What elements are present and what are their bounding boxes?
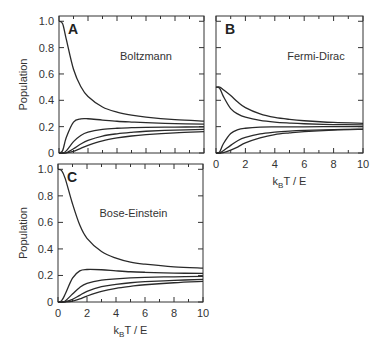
x-tick-label: 2 (242, 158, 248, 170)
panel-label: A (68, 21, 78, 37)
y-tick-label: 0 (47, 296, 53, 308)
series-line-level-4 (58, 281, 203, 302)
y-tick-label: 0.2 (39, 121, 54, 133)
y-tick-label: 0.8 (39, 42, 54, 54)
y-tick-label: 0.6 (39, 68, 54, 80)
panel-c: 00.20.40.60.81.00246810PopulationkBT / E… (17, 163, 209, 339)
panel-label: C (67, 169, 77, 185)
panel-label: B (225, 21, 235, 37)
panel-a: 00.20.40.60.81.0PopulationABoltzmann (17, 15, 204, 159)
y-tick-label: 1.0 (39, 15, 54, 27)
y-tick-label: 0.4 (39, 94, 54, 106)
x-tick-label: 10 (197, 307, 209, 319)
x-tick-label: 6 (301, 158, 307, 170)
series-line-level-0 (59, 21, 204, 121)
y-tick-label: 0.2 (38, 269, 53, 281)
distribution-title: Fermi-Dirac (287, 50, 345, 62)
y-tick-label: 0 (48, 147, 54, 159)
x-tick-label: 4 (113, 307, 119, 319)
x-tick-label: 10 (357, 158, 369, 170)
x-axis-label: kBT / E (273, 175, 307, 190)
plot-frame (58, 164, 203, 302)
y-tick-label: 1.0 (38, 163, 53, 175)
series-line-level-2 (59, 127, 204, 153)
figure: 00.20.40.60.81.0PopulationABoltzmann0246… (0, 0, 381, 351)
series-line-level-0 (58, 169, 203, 268)
x-axis-label: kBT / E (114, 324, 148, 339)
y-axis-label: Population (17, 207, 29, 259)
y-tick-label: 0.6 (38, 216, 53, 228)
x-tick-label: 2 (84, 307, 90, 319)
distribution-title: Boltzmann (120, 50, 172, 62)
x-tick-label: 8 (171, 307, 177, 319)
x-tick-label: 6 (142, 307, 148, 319)
y-axis-label: Population (17, 59, 29, 111)
x-tick-label: 0 (213, 158, 219, 170)
distribution-title: Bose-Einstein (99, 207, 167, 219)
x-tick-label: 8 (331, 158, 337, 170)
series-line-level-0 (216, 87, 363, 123)
x-tick-label: 4 (272, 158, 278, 170)
y-tick-label: 0.8 (38, 190, 53, 202)
panel-b: 0246810kBT / EBFermi-Dirac (213, 16, 369, 190)
y-tick-label: 0.4 (38, 243, 53, 255)
x-tick-label: 0 (55, 307, 61, 319)
